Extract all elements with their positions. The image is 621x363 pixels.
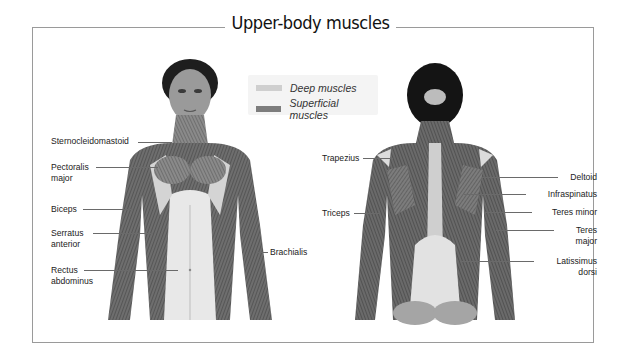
leader-line-rectus-abdominus [84,270,178,271]
label-biceps: Biceps [51,204,77,215]
legend-label-superficial: Superficial muscles [289,97,378,121]
leader-line-brachialis [256,252,268,253]
back-figure [355,55,535,325]
leader-line-biceps [83,209,133,210]
legend-item-deep: Deep muscles [256,82,357,94]
label-infraspinatus: Infraspinatus [548,189,597,200]
label-rectus-abdominus: Rectus abdominus [51,265,93,287]
leader-line-infraspinatus [464,194,526,195]
superficial-muscle-swatch [256,106,281,112]
label-trapezius: Trapezius [322,153,359,164]
label-deltoid: Deltoid [570,172,597,183]
label-triceps: Triceps [322,208,350,219]
label-teres-major: Teres major [576,225,598,247]
leader-line-sternocleidomastoid [138,142,172,143]
back-body-illustration [355,55,535,325]
leader-line-trapezius [363,158,393,159]
legend-item-superficial: Superficial muscles [256,97,378,121]
label-sternocleidomastoid: Sternocleidomastoid [51,136,129,147]
label-teres-minor: Teres minor [552,207,597,218]
leader-line-teres-major [496,230,554,231]
legend-label-deep: Deep muscles [290,82,357,94]
leader-line-deltoid [482,177,558,178]
leader-line-triceps [354,213,380,214]
legend: Deep muscles Superficial muscles [248,75,378,115]
label-latissimus-dorsi: Latissimus dorsi [556,256,597,278]
label-pectoralis-major: Pectoralis major [51,162,89,184]
diagram-title: Upper-body muscles [0,12,621,33]
leader-line-latissimus-dorsi [460,261,534,262]
label-serratus-anterior: Serratus anterior [51,228,83,250]
label-brachialis: Brachialis [270,247,307,258]
leader-line-pectoralis-major [96,167,158,168]
leader-line-teres-minor [484,212,532,213]
leader-line-serratus-anterior [93,233,153,234]
deep-muscle-swatch [256,85,282,91]
